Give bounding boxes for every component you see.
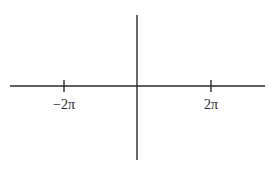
axes-diagram [0, 0, 274, 170]
tick-label-2pi: 2π [204, 98, 218, 112]
tick-label-neg-2pi: −2π [53, 98, 75, 112]
